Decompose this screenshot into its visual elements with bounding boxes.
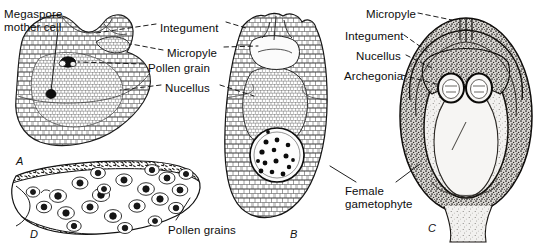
panel-b-female-gametophyte: [250, 128, 304, 182]
label-integument-left: Integument: [160, 22, 219, 35]
panel-letter-c: C: [428, 222, 436, 234]
label-female-gametophyte: Female gametophyte: [345, 185, 413, 210]
label-megaspore-mother-cell: Megaspore mother cell: [4, 8, 62, 33]
label-pollen-grains: Pollen grains: [168, 224, 236, 237]
label-micropyle-left: Micropyle: [167, 47, 217, 60]
panel-letter-a: A: [16, 155, 23, 167]
label-integument-right: Integument: [345, 30, 404, 43]
panel-letter-b: B: [290, 228, 297, 240]
figure-canvas: [0, 0, 546, 246]
label-nucellus-right: Nucellus: [356, 50, 401, 63]
label-micropyle-right: Micropyle: [366, 8, 416, 21]
label-pollen-grain: Pollen grain: [148, 62, 210, 75]
label-archegonia: Archegonia: [344, 70, 403, 83]
label-nucellus-left: Nucellus: [165, 82, 210, 95]
panel-letter-d: D: [30, 228, 38, 240]
